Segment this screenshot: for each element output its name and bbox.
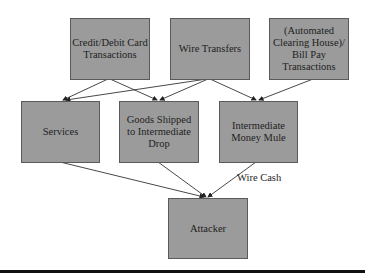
edge-ach-mule: [259, 79, 313, 100]
bottom-rule: [0, 270, 365, 273]
edge-label-wire-cash: Wire Cash: [237, 172, 281, 183]
node-label: Intermediate Money Mule: [231, 120, 286, 144]
node-label: Attacker: [190, 223, 226, 235]
node-goods-shipped: Goods Shipped to Intermediate Drop: [119, 101, 199, 163]
node-attacker: Attacker: [168, 198, 248, 259]
edge-wire-mule: [210, 79, 256, 100]
node-label: Goods Shipped to Intermediate Drop: [127, 114, 191, 150]
node-intermediate-money-mule: Intermediate Money Mule: [219, 101, 298, 163]
node-label: (Automated Clearing House)/ Bill Pay Tra…: [273, 25, 345, 73]
node-ach-bill-pay-transactions: (Automated Clearing House)/ Bill Pay Tra…: [269, 18, 349, 80]
edge-wire-services: [66, 79, 207, 100]
node-label: Services: [43, 126, 79, 138]
node-wire-transfers: Wire Transfers: [170, 18, 250, 80]
node-credit-debit-card-transactions: Credit/Debit Card Transactions: [70, 18, 150, 80]
node-label: Wire Transfers: [179, 43, 241, 55]
node-services: Services: [21, 101, 100, 163]
node-label: Credit/Debit Card Transactions: [72, 37, 148, 61]
